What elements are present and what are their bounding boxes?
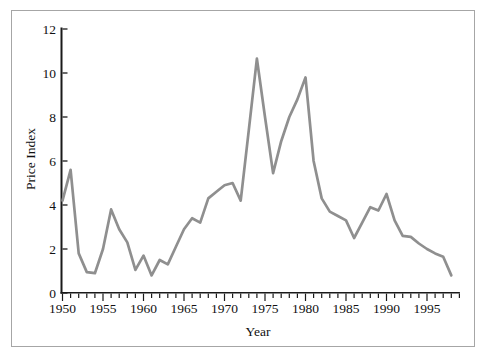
x-tick-label: 1950 xyxy=(49,301,76,316)
y-tick-label: 8 xyxy=(49,110,56,125)
y-axis-title: Price Index xyxy=(23,128,39,190)
y-tick-label: 12 xyxy=(43,22,57,37)
x-tick-label: 1995 xyxy=(414,301,441,316)
y-tick-label: 4 xyxy=(49,198,56,213)
x-axis-title: Year xyxy=(246,324,271,340)
x-tick-label: 1955 xyxy=(90,301,117,316)
x-tick-label: 1965 xyxy=(171,301,198,316)
x-tick-label: 1985 xyxy=(333,301,360,316)
y-tick-label: 10 xyxy=(43,66,57,81)
x-tick-label: 1975 xyxy=(252,301,279,316)
y-tick-label: 6 xyxy=(49,154,56,169)
price-index-chart: 0246810121950195519601965197019751980198… xyxy=(0,0,487,360)
x-tick-label: 1980 xyxy=(292,301,319,316)
x-tick-label: 1960 xyxy=(130,301,157,316)
y-tick-label: 2 xyxy=(49,242,56,257)
price-series-line xyxy=(63,59,452,276)
x-tick-label: 1990 xyxy=(373,301,400,316)
x-tick-label: 1970 xyxy=(211,301,238,316)
y-tick-label: 0 xyxy=(49,286,56,301)
figure: 0246810121950195519601965197019751980198… xyxy=(0,0,487,360)
